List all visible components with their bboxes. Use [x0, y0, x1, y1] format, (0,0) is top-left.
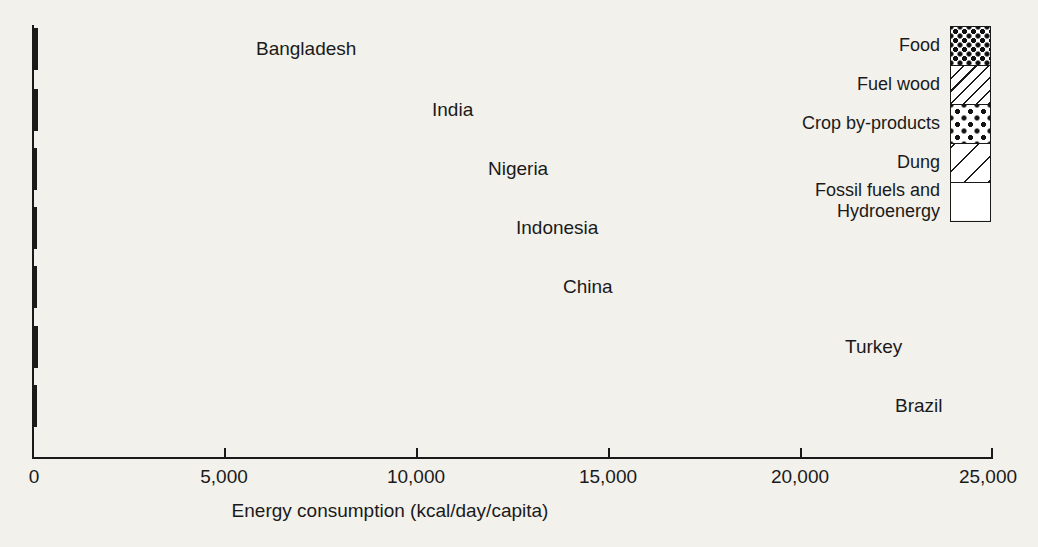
legend-label-fuel-wood: Fuel wood	[700, 74, 940, 95]
x-axis-title: Energy consumption (kcal/day/capita)	[232, 500, 549, 522]
plot-area: Bangladesh India Nigeria	[0, 0, 1038, 547]
bar-segment-crop-by-products	[35, 386, 36, 426]
x-axis-tick-label: 25,000	[959, 466, 1017, 488]
x-axis-tick	[991, 448, 993, 457]
legend-label-dung: Dung	[700, 152, 940, 173]
x-axis-tick-label: 0	[29, 466, 40, 488]
bar-label-turkey: Turkey	[845, 326, 902, 368]
bar-label-india: India	[432, 89, 473, 131]
energy-consumption-chart: Bangladesh India Nigeria	[0, 0, 1038, 547]
bar-label-indonesia: Indonesia	[516, 207, 598, 249]
bar-row	[32, 28, 246, 70]
bar-row	[32, 89, 422, 131]
x-axis-tick	[416, 448, 418, 457]
bar-row	[32, 385, 885, 427]
x-axis-tick-label: 5,000	[200, 466, 248, 488]
legend-swatch-dung	[951, 144, 990, 183]
legend-swatch-food	[951, 27, 990, 66]
legend-label-crop-by-products: Crop by-products	[700, 113, 940, 134]
bar-row	[32, 148, 478, 190]
bar-label-china: China	[563, 266, 613, 308]
bar-label-brazil: Brazil	[895, 385, 943, 427]
bar-segment-crop-by-products	[35, 208, 36, 248]
bar-segment-crop-by-products	[35, 149, 36, 189]
legend-label-food: Food	[700, 35, 940, 56]
bar-segment-dung	[36, 327, 37, 367]
legend-swatch-crop-by-products	[951, 105, 990, 144]
x-axis-tick-label: 15,000	[579, 466, 637, 488]
bar-segment-crop-by-products	[35, 267, 36, 307]
bar-label-bangladesh: Bangladesh	[256, 28, 356, 70]
x-axis-line	[32, 457, 993, 459]
x-axis-tick-label: 10,000	[387, 466, 445, 488]
legend-label-fossil-fuels: Fossil fuels and Hydroenergy	[700, 180, 940, 222]
legend-swatch-fossil-fuels	[951, 183, 990, 220]
x-axis-tick	[32, 448, 34, 457]
x-axis-tick-label: 20,000	[771, 466, 829, 488]
bar-row	[32, 207, 506, 249]
legend-swatch-fuel-wood	[951, 66, 990, 105]
bar-segment-dung	[36, 29, 37, 69]
y-axis-line	[32, 25, 34, 458]
bar-segment-dung	[36, 90, 37, 130]
bar-label-nigeria: Nigeria	[488, 148, 548, 190]
legend-swatch-box	[950, 26, 991, 222]
bar-row	[32, 266, 553, 308]
x-axis-tick	[800, 448, 802, 457]
x-axis-tick	[224, 448, 226, 457]
x-axis-tick	[608, 448, 610, 457]
bar-row	[32, 326, 835, 368]
